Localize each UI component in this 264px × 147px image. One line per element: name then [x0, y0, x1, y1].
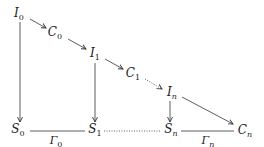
arrow-C0-I1: [68, 39, 86, 49]
node-S0: S0: [10, 123, 25, 138]
edge-label-gamman-base: Γ: [202, 134, 210, 147]
arrow-I0-C0: [30, 19, 46, 28]
node-C0-base: C: [48, 25, 57, 39]
node-Sn: Sn: [163, 123, 178, 138]
edge-label-gamma0: Γ0: [49, 135, 64, 147]
edge-label-gamman-sub: n: [209, 140, 214, 147]
node-Cn: Cn: [237, 124, 253, 139]
node-S1-sub: 1: [97, 129, 102, 138]
node-In: In: [166, 86, 178, 101]
commutative-diagram: I0 C0 I1 C1 In S0 S1 Sn Cn Γ0 Γn: [0, 0, 264, 147]
arrow-In-Cn: [182, 97, 233, 124]
node-C0: C0: [47, 26, 63, 41]
edge-label-gamma0-base: Γ: [50, 134, 58, 147]
node-C1-base: C: [126, 66, 135, 80]
node-In-sub: n: [172, 92, 177, 101]
node-C1-sub: 1: [135, 73, 140, 82]
node-Cn-base: C: [238, 123, 247, 137]
node-S0-base: S: [11, 122, 19, 136]
node-Sn-base: S: [164, 122, 172, 136]
node-C1: C1: [125, 67, 141, 82]
node-Cn-sub: n: [247, 130, 252, 139]
node-S1: S1: [87, 123, 102, 138]
edge-label-gamman: Γn: [201, 135, 216, 147]
node-I1: I1: [89, 47, 101, 62]
node-S0-sub: 0: [20, 129, 25, 138]
node-I0: I0: [13, 7, 25, 22]
node-C0-sub: 0: [57, 32, 62, 41]
edge-label-gamma0-sub: 0: [57, 140, 62, 147]
node-Sn-sub: n: [173, 129, 178, 138]
arrow-C1-In: [145, 79, 162, 89]
node-I1-sub: 1: [95, 53, 100, 62]
arrow-I1-C1: [105, 59, 123, 69]
node-S1-base: S: [88, 122, 96, 136]
node-I0-sub: 0: [19, 13, 24, 22]
